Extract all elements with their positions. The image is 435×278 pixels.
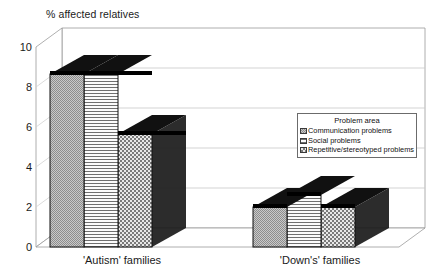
legend[interactable]: Problem area Communication problems Soci… [297, 113, 417, 158]
legend-item-repetitive[interactable]: Repetitive/stereotyped problems [300, 145, 414, 154]
bar-downs-repetitive [321, 188, 389, 247]
legend-swatch-social-icon [300, 138, 307, 144]
legend-label-social: Social problems [308, 136, 361, 145]
legend-label-repetitive: Repetitive/stereotyped problems [308, 145, 414, 154]
legend-item-social[interactable]: Social problems [300, 136, 414, 145]
bar-chart: % affected relatives 0 2 4 6 8 10 [0, 0, 435, 278]
legend-item-communication[interactable]: Communication problems [300, 126, 414, 135]
legend-swatch-repetitive-icon [300, 147, 307, 153]
legend-label-communication: Communication problems [308, 126, 392, 135]
legend-title: Problem area [300, 116, 414, 125]
legend-swatch-communication-icon [300, 128, 307, 134]
category-label-downs: 'Down's' families [280, 254, 360, 266]
category-label-autism: 'Autism' families [83, 254, 161, 266]
